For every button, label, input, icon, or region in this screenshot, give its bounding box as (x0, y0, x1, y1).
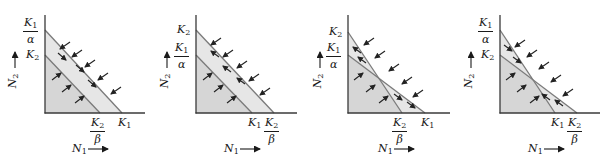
x-axis-label: N1 (224, 142, 239, 156)
direction-arrow-icon (375, 51, 385, 58)
y-intercept-frac-label: K1α (174, 42, 189, 70)
x-axis-label: N1 (72, 142, 87, 156)
direction-arrow-icon (60, 42, 70, 49)
isocline-diagram: N2N1K1αK2K2βK1N2N1K2K1αK1K2βN2N1K2K1αK2β… (0, 0, 609, 162)
y-axis-label: N2 (311, 74, 325, 89)
x-intercept-frac-label: K2β (90, 117, 105, 145)
direction-arrow-icon (260, 88, 270, 95)
y-intercept-label: K2 (329, 26, 342, 39)
x-intercept-label: K1 (248, 117, 261, 130)
shaded-region-inner (348, 55, 402, 113)
direction-arrow-icon (527, 50, 537, 57)
direction-arrow-icon (237, 61, 247, 68)
direction-arrow-icon (563, 89, 573, 96)
y-intercept-label: K2 (481, 49, 494, 62)
x-intercept-frac-label: K2β (392, 117, 407, 145)
x-intercept-label: K1 (421, 117, 434, 130)
x-axis-label: N1 (378, 142, 393, 156)
y-axis-label: N2 (158, 74, 172, 89)
direction-arrow-icon (402, 77, 412, 84)
y-intercept-label: K2 (26, 49, 39, 62)
y-intercept-frac-label: K1α (326, 42, 341, 70)
y-axis-label: N2 (6, 74, 20, 89)
direction-arrow-icon (223, 50, 233, 57)
x-intercept-label: K1 (551, 117, 564, 130)
direction-arrow-icon (551, 75, 561, 82)
direction-arrow-icon (85, 60, 95, 67)
direction-arrow-icon (389, 64, 399, 71)
direction-arrow-icon (364, 38, 374, 45)
direction-arrow-icon (98, 73, 108, 80)
direction-arrow-icon (72, 50, 82, 57)
y-intercept-frac-label: K1α (478, 17, 493, 45)
direction-arrow-icon (539, 62, 549, 69)
direction-arrow-icon (211, 38, 221, 45)
x-intercept-frac-label: K2β (567, 117, 582, 145)
direction-arrow-icon (111, 87, 121, 94)
y-intercept-label: K2 (177, 24, 190, 37)
x-intercept-label: K1 (118, 117, 131, 130)
y-intercept-frac-label: K1α (23, 17, 38, 45)
x-axis-label: N1 (528, 142, 543, 156)
direction-arrow-icon (413, 90, 423, 97)
direction-arrow-icon (249, 74, 259, 81)
direction-arrow-icon (515, 40, 525, 47)
y-axis-label: N2 (462, 74, 476, 89)
x-intercept-frac-label: K2β (264, 117, 279, 145)
